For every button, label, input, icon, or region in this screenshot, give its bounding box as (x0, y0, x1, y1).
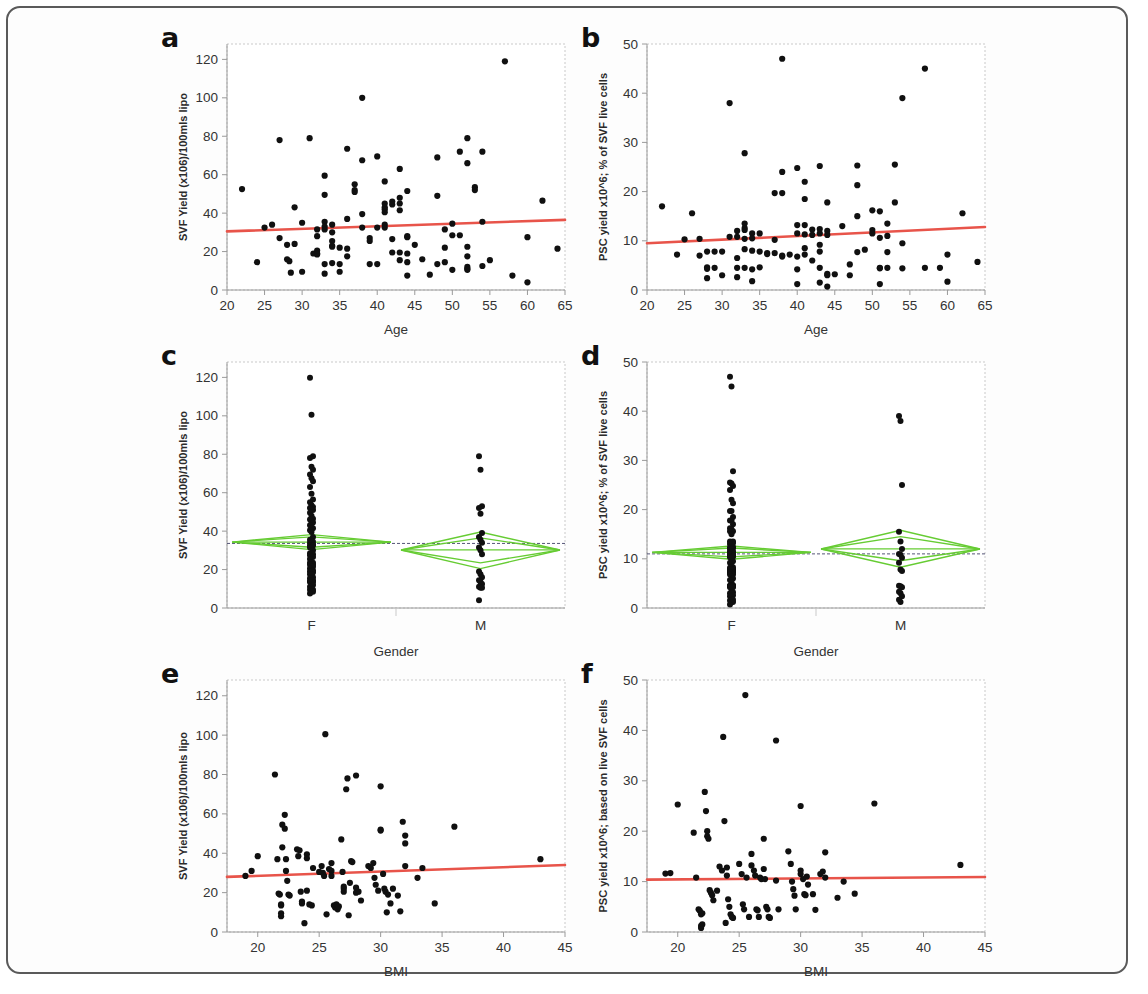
data-point (667, 870, 673, 876)
y-tick-label: 40 (203, 206, 218, 221)
data-point (704, 275, 710, 281)
panel-e: e020406080100120SVF Yield (x106)/100mls … (155, 658, 575, 994)
data-point (742, 236, 748, 242)
data-point (791, 893, 797, 899)
data-point (681, 236, 687, 242)
data-point (820, 868, 826, 874)
data-point (705, 836, 711, 842)
data-point (307, 135, 313, 141)
data-point (730, 915, 736, 921)
y-tick-label: 0 (630, 601, 638, 616)
data-point (742, 246, 748, 252)
data-point (899, 95, 905, 101)
data-point (898, 599, 904, 605)
data-point (696, 236, 702, 242)
data-point (817, 230, 823, 236)
data-point (802, 179, 808, 185)
y-tick-label: 0 (210, 601, 218, 616)
data-point (328, 873, 334, 879)
data-point (304, 888, 310, 894)
panel-f: f01020304050PSC yield x10^6; based on li… (575, 658, 995, 994)
data-point (767, 915, 773, 921)
data-point (279, 844, 285, 850)
data-point (805, 882, 811, 888)
data-point (321, 873, 327, 879)
data-point (794, 230, 800, 236)
x-tick-label: 30 (715, 298, 730, 313)
data-point (478, 467, 484, 473)
data-point (457, 232, 463, 238)
data-point (419, 256, 425, 262)
data-point (282, 812, 288, 818)
data-point (877, 235, 883, 241)
data-point (286, 258, 292, 264)
data-point (464, 160, 470, 166)
x-tick-label: 60 (520, 298, 535, 313)
x-tick-label: 55 (482, 298, 497, 313)
data-point (344, 253, 350, 259)
data-point (449, 267, 455, 273)
data-point (719, 249, 725, 255)
data-point (254, 259, 260, 265)
data-point (287, 892, 293, 898)
data-point (412, 242, 418, 248)
data-point (730, 500, 736, 506)
x-tick-label: 60 (940, 298, 955, 313)
category-tick-label-F: F (727, 618, 735, 633)
data-point (397, 249, 403, 255)
data-point (794, 222, 800, 228)
data-point (779, 190, 785, 196)
data-point (884, 220, 890, 226)
y-tick-label: 120 (195, 370, 218, 385)
data-point (749, 266, 755, 272)
x-tick-label: 65 (557, 298, 572, 313)
data-point (329, 260, 335, 266)
data-point (810, 891, 816, 897)
data-point (794, 266, 800, 272)
y-axis-title: PSC yield x10^6; % of SVF live cells (597, 391, 609, 579)
data-point (524, 279, 530, 285)
data-point (727, 602, 733, 608)
data-point (899, 265, 905, 271)
data-point (464, 244, 470, 250)
data-point (464, 253, 470, 259)
data-point (693, 874, 699, 880)
data-point (756, 914, 762, 920)
data-point (414, 875, 420, 881)
panel-plot-d: 01020304050PSC yield x10^6; % of SVF liv… (575, 340, 995, 670)
data-point (802, 245, 808, 251)
data-point (349, 859, 355, 865)
data-point (824, 199, 830, 205)
data-point (944, 251, 950, 257)
data-point (710, 897, 716, 903)
x-tick-label: 20 (670, 940, 685, 955)
data-point (734, 274, 740, 280)
data-point (742, 150, 748, 156)
data-point (802, 251, 808, 257)
data-point (464, 135, 470, 141)
data-point (341, 889, 347, 895)
data-point (824, 232, 830, 238)
data-point (794, 253, 800, 259)
data-point (284, 242, 290, 248)
data-point (239, 186, 245, 192)
y-tick-label: 100 (195, 728, 218, 743)
data-point (727, 100, 733, 106)
data-point (794, 165, 800, 171)
x-tick-label: 45 (827, 298, 842, 313)
y-tick-label: 40 (623, 404, 638, 419)
data-point (397, 166, 403, 172)
data-point (757, 249, 763, 255)
data-point (729, 508, 735, 514)
data-point (723, 920, 729, 926)
data-point (296, 847, 302, 853)
data-point (404, 259, 410, 265)
data-point (328, 860, 334, 866)
x-tick-label: 45 (407, 298, 422, 313)
data-point (329, 244, 335, 250)
data-point (798, 803, 804, 809)
x-tick-label: 20 (639, 298, 654, 313)
x-axis-title: Age (384, 322, 408, 337)
data-point (451, 824, 457, 830)
data-point (442, 259, 448, 265)
